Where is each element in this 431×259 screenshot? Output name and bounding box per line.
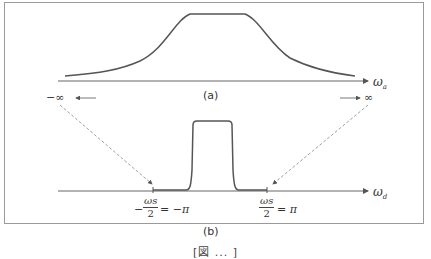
panel-b-label: (b) — [203, 226, 219, 237]
left-dashed-mapping — [60, 105, 152, 184]
left-tick-value: = −π — [160, 204, 189, 215]
right-tick-value: = π — [277, 204, 297, 215]
axis-a-label: ωa — [373, 76, 387, 91]
passband-curve — [153, 121, 267, 190]
figure-caption: [図 ... ] — [0, 243, 431, 259]
panel-a-label: (a) — [203, 90, 218, 101]
right-infinity-label: ∞ — [364, 92, 373, 103]
right-tick-fraction: ωs 2 — [259, 196, 274, 219]
left-tick-prefix: − — [134, 204, 143, 215]
left-tick-fraction: ωs 2 — [143, 196, 158, 219]
right-dashed-mapping — [273, 105, 368, 184]
left-infinity-label: −∞ — [46, 92, 64, 103]
axis-b-label: ωd — [373, 186, 387, 201]
bell-curve — [65, 14, 355, 76]
